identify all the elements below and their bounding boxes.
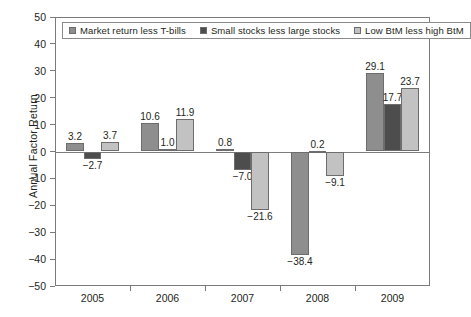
bar[interactable] (84, 152, 102, 159)
legend-swatch-icon (354, 27, 361, 34)
bar-value-label: 0.8 (195, 137, 255, 148)
y-tick-mark (50, 17, 55, 18)
legend-label: Small stocks less large stocks (211, 25, 340, 36)
x-tick-mark (355, 286, 356, 291)
y-tick-mark (50, 286, 55, 287)
legend-item-low-btm: Low BtM less high BtM (354, 25, 464, 36)
bar[interactable] (291, 152, 309, 255)
y-tick-label: 50 (34, 10, 46, 24)
bar-value-label: 23.7 (380, 76, 440, 87)
bar-value-label: 29.1 (345, 61, 405, 72)
legend-swatch-icon (200, 27, 207, 34)
x-tick-mark (205, 286, 206, 291)
bar-value-label: 0.2 (288, 139, 348, 150)
y-tick: −20 (0, 198, 55, 212)
bar-value-label: 11.9 (155, 107, 215, 118)
y-tick: 40 (0, 37, 55, 51)
x-axis-label: 2006 (128, 292, 208, 304)
x-axis-label: 2007 (203, 292, 283, 304)
y-tick-label: −50 (28, 279, 46, 293)
bar[interactable] (216, 149, 234, 151)
x-axis-label: 2005 (53, 292, 133, 304)
y-tick-mark (50, 232, 55, 233)
y-tick: 0 (0, 145, 55, 159)
y-tick-mark (50, 43, 55, 44)
y-tick-label: −20 (28, 198, 46, 212)
y-tick: 10 (0, 118, 55, 132)
y-tick-mark (50, 124, 55, 125)
x-axis-label: 2008 (278, 292, 358, 304)
bar-value-label: 3.7 (80, 130, 140, 141)
bar[interactable] (326, 152, 344, 176)
legend-label: Market return less T-bills (80, 25, 186, 36)
y-tick: 20 (0, 91, 55, 105)
y-tick-mark (50, 259, 55, 260)
bar[interactable] (176, 119, 194, 151)
y-tick-label: 30 (34, 64, 46, 78)
bar-value-label: −38.4 (270, 256, 330, 267)
legend-item-small-stocks: Small stocks less large stocks (200, 25, 340, 36)
bar-value-label: −2.7 (63, 160, 123, 171)
y-tick-label: 40 (34, 37, 46, 51)
y-tick-label: 20 (34, 91, 46, 105)
y-tick: −40 (0, 252, 55, 266)
y-tick-label: −30 (28, 225, 46, 239)
legend-swatch-icon (69, 27, 76, 34)
y-tick-mark (50, 205, 55, 206)
bar[interactable] (159, 149, 177, 152)
y-tick: −30 (0, 225, 55, 239)
y-tick: −10 (0, 171, 55, 185)
bar[interactable] (401, 88, 419, 152)
bar-value-label: −9.1 (305, 177, 365, 188)
y-tick-mark (50, 178, 55, 179)
bar-value-label: −21.6 (230, 211, 290, 222)
y-tick-label: −40 (28, 252, 46, 266)
y-tick: −50 (0, 279, 55, 293)
bar[interactable] (66, 143, 84, 152)
x-tick-mark (280, 286, 281, 291)
y-tick-label: −10 (28, 171, 46, 185)
bar[interactable] (251, 152, 269, 210)
chart-legend: Market return less T-bills Small stocks … (62, 22, 471, 39)
bar[interactable] (234, 152, 252, 171)
x-axis-label: 2009 (353, 292, 433, 304)
bar[interactable] (101, 142, 119, 152)
legend-item-market-return: Market return less T-bills (69, 25, 186, 36)
y-tick-mark (50, 97, 55, 98)
y-tick: 30 (0, 64, 55, 78)
x-tick-mark (130, 286, 131, 291)
legend-label: Low BtM less high BtM (365, 25, 464, 36)
y-tick-mark (50, 151, 55, 152)
bar[interactable] (309, 151, 327, 153)
y-tick: 50 (0, 10, 55, 24)
y-tick-label: 0 (40, 145, 46, 159)
y-tick-mark (50, 70, 55, 71)
y-tick-label: 10 (34, 118, 46, 132)
bar[interactable] (384, 104, 402, 152)
